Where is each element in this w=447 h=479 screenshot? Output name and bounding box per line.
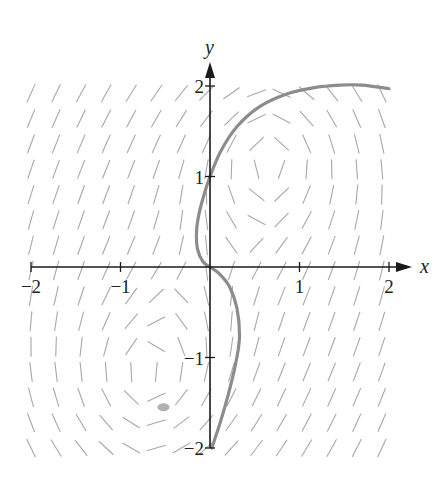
slope-segment — [273, 114, 291, 123]
slope-segment — [78, 211, 85, 230]
slope-segment — [29, 236, 34, 255]
slope-segment — [54, 286, 58, 305]
slope-segment — [353, 388, 361, 406]
x-axis-arrow-icon — [396, 262, 412, 272]
slope-segment — [76, 414, 86, 431]
slope-segment — [154, 210, 160, 229]
slope-segment — [254, 312, 259, 331]
slope-segment — [325, 85, 337, 101]
slope-segment — [153, 160, 160, 179]
slope-segment — [276, 440, 287, 457]
slope-segment — [277, 262, 286, 280]
x-axis-label: x — [419, 255, 429, 277]
slope-segment — [27, 413, 34, 432]
slope-segment — [254, 337, 259, 356]
slope-segment — [226, 237, 237, 253]
slope-segment — [175, 389, 187, 405]
slope-segment — [303, 337, 310, 356]
slope-segment — [30, 311, 32, 331]
slope-segment — [53, 160, 60, 179]
slope-segment — [53, 388, 59, 407]
slope-segment — [228, 261, 234, 280]
slope-segment — [147, 445, 166, 451]
slope-segment — [328, 261, 335, 280]
slope-segment — [328, 287, 335, 306]
slope-segment — [152, 135, 160, 153]
slope-segment — [277, 414, 287, 431]
slope-segment — [53, 185, 59, 204]
slope-segment — [102, 261, 110, 279]
slope-segment — [274, 137, 289, 151]
slope-segment — [231, 311, 233, 331]
slope-segment — [56, 337, 57, 357]
slope-segment — [379, 337, 385, 356]
slope-segment — [352, 85, 362, 102]
x-tick-label: −1 — [110, 276, 130, 297]
slope-segment — [52, 84, 61, 102]
slope-segment — [28, 160, 34, 179]
slope-segment — [250, 238, 264, 253]
slope-segment — [379, 312, 385, 331]
slope-segment — [175, 85, 188, 101]
slope-segment — [254, 286, 260, 305]
y-tick-label: −2 — [184, 438, 204, 459]
slope-segment — [353, 363, 360, 382]
slope-segment — [151, 110, 161, 127]
slope-segment — [378, 363, 385, 382]
slope-segment — [380, 235, 384, 255]
slope-segment — [204, 312, 208, 332]
slope-segment — [378, 388, 385, 407]
slope-segment — [354, 312, 360, 331]
slope-segment — [77, 160, 84, 179]
slope-segment — [77, 110, 86, 128]
slope-segment — [78, 236, 85, 255]
slope-segment — [125, 314, 138, 329]
slope-segment — [250, 440, 262, 456]
slope-segment — [254, 160, 259, 179]
slope-segment — [328, 363, 335, 382]
slope-segment — [231, 159, 232, 179]
slope-segment — [101, 85, 111, 102]
slope-segment — [303, 312, 310, 331]
slope-segment — [128, 211, 135, 230]
slope-segment — [328, 312, 335, 331]
slope-segment — [327, 439, 337, 456]
slope-segment — [179, 236, 183, 255]
slope-segment — [53, 236, 59, 255]
slope-segment — [151, 262, 161, 279]
slope-segment — [382, 185, 383, 205]
slope-segment — [251, 414, 262, 431]
slope-segment — [228, 185, 235, 204]
slope-segment — [176, 110, 187, 127]
slope-segment — [123, 417, 140, 428]
slope-segment — [378, 109, 385, 128]
slope-segment — [354, 236, 359, 255]
slope-segment — [29, 388, 34, 407]
slope-segment — [126, 85, 137, 102]
slope-segment — [353, 414, 361, 432]
slope-segment — [302, 388, 310, 406]
slope-segment — [27, 109, 35, 127]
slope-segment — [249, 188, 265, 201]
slope-segment — [275, 213, 289, 227]
y-tick-label: 1 — [195, 167, 205, 188]
slope-segment — [225, 441, 238, 456]
slope-segment — [52, 135, 59, 154]
slope-segment — [175, 289, 189, 304]
x-tick-label: 1 — [295, 276, 305, 297]
slope-segment — [28, 210, 33, 229]
slope-segment — [28, 185, 34, 204]
slope-segment — [354, 286, 360, 305]
slope-segment — [278, 160, 285, 179]
slope-segment — [102, 135, 110, 153]
slope-segment — [53, 261, 58, 280]
slope-segment — [75, 440, 87, 456]
slope-segment — [78, 286, 84, 305]
slope-field-figure: −2−112 21−1−2 x y — [0, 0, 447, 479]
slope-segment — [278, 287, 285, 306]
slope-segment — [148, 342, 165, 352]
slope-segment — [180, 210, 183, 230]
slope-segment — [381, 159, 383, 179]
y-axis-label: y — [203, 36, 214, 59]
slope-segment — [102, 236, 109, 255]
